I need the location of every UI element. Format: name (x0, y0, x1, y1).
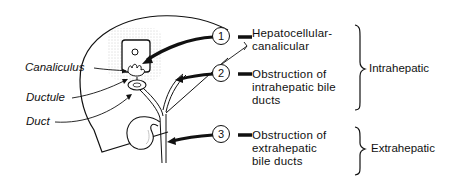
description-1-line2: canalicular (252, 40, 332, 53)
category-intrahepatic: Intrahepatic (369, 63, 429, 75)
description-3-line3: bile ducts (252, 155, 326, 168)
duct-pointer (55, 96, 130, 122)
description-2-line1: Obstruction of (252, 68, 336, 81)
arrow-2 (180, 74, 213, 79)
common-bile-duct (160, 114, 166, 163)
label-duct: Duct (26, 116, 50, 128)
arrow-3 (172, 135, 213, 141)
cholestasis-diagram: Canaliculus Ductule Duct 1 2 3 Hepatocel… (0, 0, 463, 184)
description-3-line1: Obstruction of (252, 129, 326, 142)
category-extrahepatic: Extrahepatic (371, 143, 435, 155)
description-2-line2: intrahepatic bile (252, 81, 336, 94)
marker-1: 1 (212, 27, 230, 45)
description-2-line3: ducts (252, 94, 336, 107)
label-canaliculus: Canaliculus (25, 62, 84, 74)
description-2: Obstruction of intrahepatic bile ducts (252, 68, 336, 107)
gallbladder (127, 117, 160, 150)
marker-2: 2 (212, 64, 230, 82)
label-ductule: Ductule (26, 92, 65, 104)
marker-link-lines (222, 42, 247, 64)
description-1: Hepatocellular- canalicular (252, 27, 332, 53)
description-1-line1: Hepatocellular- (252, 27, 332, 40)
description-3-line2: extrahepatic (252, 142, 326, 155)
marker-3: 3 (212, 125, 230, 143)
brace-intrahepatic (355, 25, 365, 110)
liver-illustration (0, 0, 463, 184)
intrahepatic-duct-left (140, 88, 163, 118)
description-3: Obstruction of extrahepatic bile ducts (252, 129, 326, 168)
brace-extrahepatic (355, 127, 365, 175)
